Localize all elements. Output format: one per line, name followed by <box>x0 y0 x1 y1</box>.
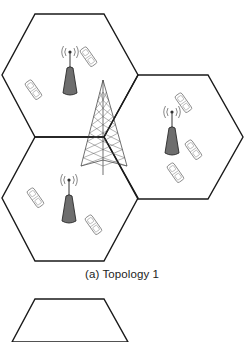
mobile-phone-icon <box>166 162 184 183</box>
base-station-icon <box>62 46 79 95</box>
hexagonal-cells <box>2 14 243 342</box>
figure-caption: (a) Topology 1 <box>0 268 244 280</box>
mobile-phone-icon <box>24 79 42 100</box>
mobile-phone-icon <box>84 214 102 235</box>
mobile-phone-icon <box>184 139 202 160</box>
macro-tower-icon <box>81 80 127 175</box>
mobile-phone-icon <box>79 46 97 67</box>
mobile-phone-icon <box>26 187 44 208</box>
small-cell-base-stations <box>61 46 181 223</box>
base-station-icon <box>164 106 181 155</box>
cell-second-topology-partial <box>12 299 128 342</box>
base-station-icon <box>61 174 78 223</box>
topology-diagram <box>0 0 244 342</box>
